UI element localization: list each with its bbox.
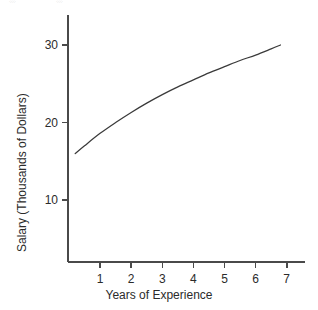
salary-experience-chart: ░ ░ Salary (Thousands of Dollars) Years … [0, 0, 318, 310]
axis-lines [68, 15, 305, 262]
salary-curve [75, 45, 280, 154]
plot-area [0, 0, 318, 310]
x-axis-tick-marks [100, 262, 287, 268]
y-axis-tick-marks [62, 45, 68, 200]
